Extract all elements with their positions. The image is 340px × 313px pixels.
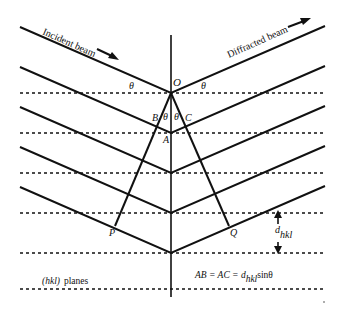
- theta-left-label: θ: [129, 80, 134, 91]
- point-O-label: O: [173, 76, 181, 88]
- beam-rays: [20, 26, 325, 253]
- line-OQ: [171, 93, 229, 226]
- incident-beam-label: Incident beam: [41, 26, 98, 59]
- point-P-label: P: [108, 227, 115, 238]
- incident-arrow-icon: [97, 49, 119, 60]
- ray-4: [20, 146, 325, 213]
- point-C-label: C: [185, 112, 192, 123]
- bragg-equation: AB = AC = dhklsinθ: [194, 270, 273, 284]
- point-Q-label: Q: [230, 227, 238, 238]
- point-A-label: A: [162, 134, 170, 145]
- point-B-label: B: [152, 112, 158, 123]
- diffracted-arrow-icon: [288, 18, 311, 27]
- stray-dot: [323, 301, 325, 303]
- lattice-planes: [20, 93, 325, 289]
- theta-B-label: θ: [163, 111, 168, 122]
- ray-3: [20, 106, 325, 173]
- ray-5: [20, 186, 325, 253]
- bragg-diagram: Incident beam Diffracted beam θ θ O B θ …: [0, 0, 340, 313]
- d-spacing-label: dhkl: [275, 224, 292, 240]
- theta-right-label: θ: [201, 80, 206, 91]
- theta-C-label: θ: [174, 111, 179, 122]
- planes-label: (hkl)planes: [42, 276, 89, 287]
